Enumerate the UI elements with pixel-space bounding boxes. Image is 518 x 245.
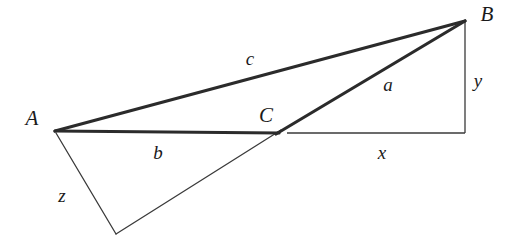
vertex-label-C: C — [259, 105, 273, 126]
vertex-label-B: B — [481, 4, 494, 25]
side-label-z: z — [58, 186, 65, 205]
segment-z-AD — [56, 133, 116, 234]
side-label-b: b — [153, 143, 163, 162]
segment-b-AC — [55, 131, 279, 133]
side-label-x: x — [378, 143, 386, 162]
segment-a-CB — [276, 21, 465, 134]
segment-DC — [116, 130, 281, 234]
side-label-c: c — [246, 49, 254, 68]
side-label-y: y — [474, 71, 482, 90]
side-label-a: a — [383, 75, 393, 94]
vertex-label-A: A — [26, 108, 39, 129]
geometry-diagram: A B C c a b z x y — [0, 0, 518, 245]
